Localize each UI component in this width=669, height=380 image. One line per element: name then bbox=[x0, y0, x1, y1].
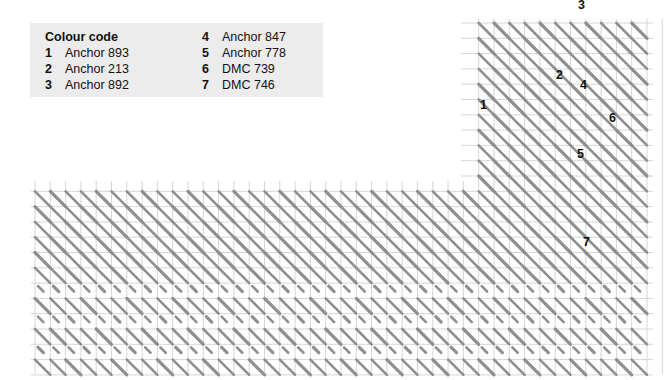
legend-item: 7DMC 746 bbox=[202, 78, 275, 92]
region-label-7: 7 bbox=[583, 235, 590, 249]
legend-item: 3Anchor 892 bbox=[45, 78, 129, 92]
region-label-3: 3 bbox=[578, 0, 585, 12]
legend-title: Colour code bbox=[45, 30, 118, 44]
region-label-6: 6 bbox=[609, 111, 616, 125]
legend-item: 5Anchor 778 bbox=[202, 46, 286, 60]
colour-code-legend: Colour code 1Anchor 893 2Anchor 213 3Anc… bbox=[30, 23, 323, 97]
legend-item: 4Anchor 847 bbox=[202, 30, 286, 44]
region-label-2: 2 bbox=[556, 68, 563, 82]
legend-item: 6DMC 739 bbox=[202, 62, 275, 76]
region-label-5: 5 bbox=[577, 147, 584, 161]
legend-item: 1Anchor 893 bbox=[45, 46, 129, 60]
legend-item: 2Anchor 213 bbox=[45, 62, 129, 76]
region-label-1: 1 bbox=[480, 98, 487, 112]
region-label-4: 4 bbox=[580, 78, 587, 92]
